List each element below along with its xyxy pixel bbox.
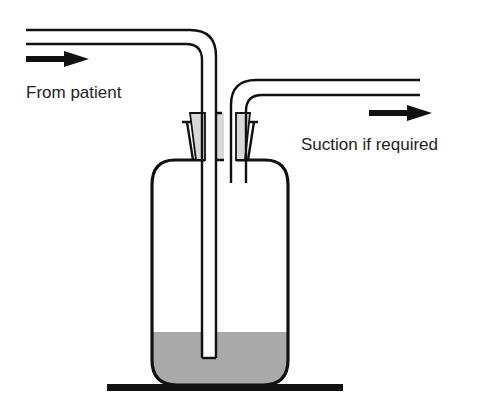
inlet-label: From patient (26, 83, 122, 102)
drainage-diagram: From patient Suction if required (0, 0, 481, 405)
outlet-label: Suction if required (301, 135, 438, 154)
base-surface (107, 384, 343, 391)
inlet-tube-bore (204, 332, 215, 358)
inlet-tube-outer (26, 30, 216, 358)
outlet-arrow-icon (369, 105, 432, 121)
liquid-seal (152, 332, 288, 385)
inlet-arrow-icon (26, 51, 89, 67)
